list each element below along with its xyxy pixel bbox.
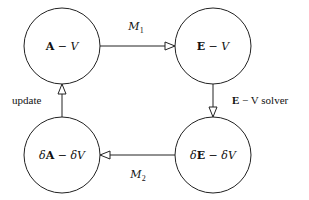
edge-m1: M1 (100, 20, 175, 46)
svg-text:E − V solver: E − V solver (232, 94, 289, 106)
node-label-rest: − δV (205, 149, 237, 162)
edge-m2: M2 (100, 155, 175, 183)
edge-label-sub: 1 (140, 26, 144, 35)
edge-e-v-solver: E − V solver (213, 84, 289, 117)
node-label-bold: E (197, 149, 205, 162)
node-label-bold: A (45, 40, 55, 53)
svg-text:δA − δV: δA − δV (39, 149, 86, 162)
node-e-v: E − V (175, 8, 251, 84)
node-label-bold: A (45, 149, 55, 162)
svg-text:M2: M2 (129, 168, 145, 183)
node-de-dv: δE − δV (175, 117, 251, 193)
edge-label-text: update (12, 94, 41, 106)
edge-label-bold: E (232, 94, 239, 106)
node-label-bold: E (197, 40, 205, 53)
edge-label-rest: − V solver (239, 94, 288, 106)
svg-text:A − V: A − V (45, 40, 80, 53)
node-label-rest: − δV (54, 149, 86, 162)
edge-label-main: M (129, 168, 142, 181)
node-label-rest: − V (205, 40, 230, 53)
svg-text:E − V: E − V (197, 40, 231, 53)
edge-update: update (12, 84, 62, 117)
node-da-dv: δA − δV (24, 117, 100, 193)
node-label-rest: − V (54, 40, 79, 53)
edge-label-sub: 2 (142, 174, 146, 183)
node-a-v: A − V (24, 8, 100, 84)
svg-text:M1: M1 (127, 20, 143, 35)
cycle-diagram: A − V E − V δE − δV δA − δV M1 E − V sol… (0, 0, 309, 200)
edge-label-main: M (127, 20, 140, 33)
svg-text:δE − δV: δE − δV (190, 149, 237, 162)
